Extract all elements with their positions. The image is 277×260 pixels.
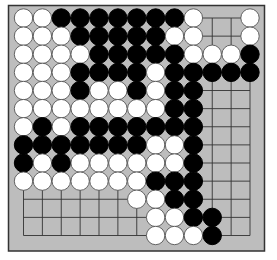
white-stone xyxy=(165,27,183,45)
black-stone xyxy=(33,118,51,136)
white-stone xyxy=(33,45,51,63)
empty-intersection[interactable] xyxy=(241,81,259,99)
empty-intersection[interactable] xyxy=(241,99,259,117)
white-stone xyxy=(52,81,70,99)
black-stone xyxy=(52,136,70,154)
empty-intersection[interactable] xyxy=(14,226,32,244)
white-stone xyxy=(33,81,51,99)
white-stone xyxy=(146,63,164,81)
empty-intersection[interactable] xyxy=(241,208,259,226)
empty-intersection[interactable] xyxy=(33,208,51,226)
white-stone xyxy=(184,45,202,63)
empty-intersection[interactable] xyxy=(241,154,259,172)
go-board[interactable] xyxy=(0,0,277,260)
empty-intersection[interactable] xyxy=(241,136,259,154)
white-stone xyxy=(14,99,32,117)
empty-intersection[interactable] xyxy=(222,81,240,99)
go-board-svg[interactable] xyxy=(0,0,277,260)
empty-intersection[interactable] xyxy=(71,208,89,226)
empty-intersection[interactable] xyxy=(71,190,89,208)
empty-intersection[interactable] xyxy=(241,172,259,190)
black-stone xyxy=(109,27,127,45)
empty-intersection[interactable] xyxy=(241,118,259,136)
black-stone xyxy=(184,63,202,81)
black-stone xyxy=(165,45,183,63)
black-stone xyxy=(146,172,164,190)
empty-intersection[interactable] xyxy=(222,99,240,117)
white-stone xyxy=(71,45,89,63)
empty-intersection[interactable] xyxy=(109,190,127,208)
white-stone xyxy=(184,27,202,45)
black-stone xyxy=(71,9,89,27)
black-stone xyxy=(128,81,146,99)
empty-intersection[interactable] xyxy=(14,190,32,208)
empty-intersection[interactable] xyxy=(90,208,108,226)
empty-intersection[interactable] xyxy=(222,190,240,208)
empty-intersection[interactable] xyxy=(203,154,221,172)
black-stone xyxy=(146,118,164,136)
empty-intersection[interactable] xyxy=(241,190,259,208)
empty-intersection[interactable] xyxy=(222,154,240,172)
white-stone xyxy=(33,9,51,27)
black-stone xyxy=(165,99,183,117)
black-stone xyxy=(165,118,183,136)
empty-intersection[interactable] xyxy=(222,136,240,154)
white-stone xyxy=(146,136,164,154)
black-stone xyxy=(184,172,202,190)
empty-intersection[interactable] xyxy=(203,118,221,136)
black-stone xyxy=(90,136,108,154)
empty-intersection[interactable] xyxy=(71,226,89,244)
empty-intersection[interactable] xyxy=(222,118,240,136)
empty-intersection[interactable] xyxy=(52,190,70,208)
empty-intersection[interactable] xyxy=(203,136,221,154)
black-stone xyxy=(109,63,127,81)
empty-intersection[interactable] xyxy=(222,208,240,226)
white-stone xyxy=(14,63,32,81)
black-stone xyxy=(165,81,183,99)
black-stone xyxy=(128,27,146,45)
empty-intersection[interactable] xyxy=(128,208,146,226)
empty-intersection[interactable] xyxy=(52,208,70,226)
white-stone xyxy=(90,172,108,190)
empty-intersection[interactable] xyxy=(90,226,108,244)
empty-intersection[interactable] xyxy=(33,226,51,244)
empty-intersection[interactable] xyxy=(90,190,108,208)
empty-intersection[interactable] xyxy=(52,226,70,244)
black-stone xyxy=(203,226,221,244)
empty-intersection[interactable] xyxy=(33,190,51,208)
empty-intersection[interactable] xyxy=(203,27,221,45)
white-stone xyxy=(165,136,183,154)
white-stone xyxy=(165,226,183,244)
empty-intersection[interactable] xyxy=(222,9,240,27)
empty-intersection[interactable] xyxy=(128,226,146,244)
empty-intersection[interactable] xyxy=(109,226,127,244)
white-stone xyxy=(14,81,32,99)
white-stone xyxy=(71,99,89,117)
empty-intersection[interactable] xyxy=(222,172,240,190)
white-stone xyxy=(52,45,70,63)
empty-intersection[interactable] xyxy=(241,226,259,244)
white-stone xyxy=(128,99,146,117)
empty-intersection[interactable] xyxy=(203,172,221,190)
white-stone xyxy=(52,99,70,117)
empty-intersection[interactable] xyxy=(14,208,32,226)
white-stone xyxy=(146,99,164,117)
white-stone xyxy=(33,99,51,117)
empty-intersection[interactable] xyxy=(222,226,240,244)
empty-intersection[interactable] xyxy=(109,208,127,226)
empty-intersection[interactable] xyxy=(203,81,221,99)
white-stone xyxy=(14,9,32,27)
empty-intersection[interactable] xyxy=(222,27,240,45)
white-stone xyxy=(52,63,70,81)
empty-intersection[interactable] xyxy=(203,99,221,117)
white-stone xyxy=(14,118,32,136)
empty-intersection[interactable] xyxy=(203,9,221,27)
empty-intersection[interactable] xyxy=(203,190,221,208)
black-stone xyxy=(71,136,89,154)
black-stone xyxy=(90,9,108,27)
black-stone xyxy=(184,81,202,99)
black-stone xyxy=(184,136,202,154)
white-stone xyxy=(184,226,202,244)
white-stone xyxy=(165,154,183,172)
white-stone xyxy=(109,99,127,117)
